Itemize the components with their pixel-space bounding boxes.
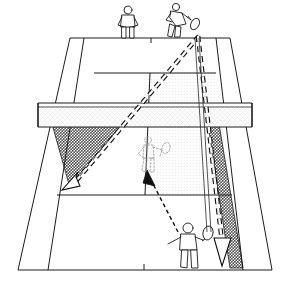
player-far-right-leg-back bbox=[168, 24, 175, 37]
player-far-left-head bbox=[124, 6, 132, 14]
player-far-left-torso bbox=[121, 15, 135, 27]
player-near-right-leg-right bbox=[191, 250, 198, 268]
player-far-right-head bbox=[172, 3, 179, 10]
player-far-left-leg-left bbox=[122, 27, 126, 38]
player-far-left-leg-right bbox=[130, 27, 134, 38]
net-group bbox=[38, 103, 252, 127]
player-far-right-server bbox=[166, 3, 201, 37]
player-far-left bbox=[118, 6, 138, 38]
player-near-right-head bbox=[183, 223, 193, 233]
player-far-right-torso bbox=[170, 11, 186, 26]
net-mesh bbox=[40, 106, 250, 126]
court-canvas bbox=[0, 0, 290, 290]
player-far-right-leg-front bbox=[175, 26, 181, 37]
player-near-right-leg-left bbox=[181, 250, 188, 268]
tennis-diagram bbox=[0, 0, 290, 290]
player-near-right-torso bbox=[180, 234, 197, 250]
